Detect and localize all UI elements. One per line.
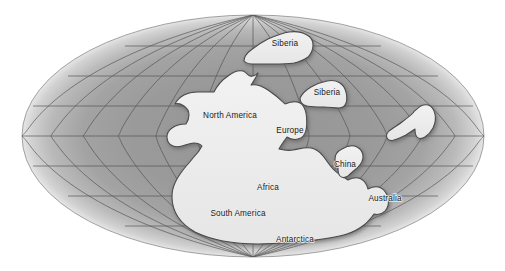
label-siberia-east: Siberia [314,88,341,97]
label-siberia-north: Siberia [272,39,299,48]
world-map-svg: Siberia Siberia North America Europe Chi… [0,0,505,271]
label-antarctica: Antarctica [276,235,314,244]
label-africa: Africa [257,183,279,192]
label-china: China [334,160,356,169]
label-north-america: North America [203,111,257,120]
label-europe: Europe [276,126,304,135]
pangaea-map-figure: Siberia Siberia North America Europe Chi… [0,0,505,271]
label-australia: Australia [368,194,402,203]
label-south-america: South America [210,209,265,218]
